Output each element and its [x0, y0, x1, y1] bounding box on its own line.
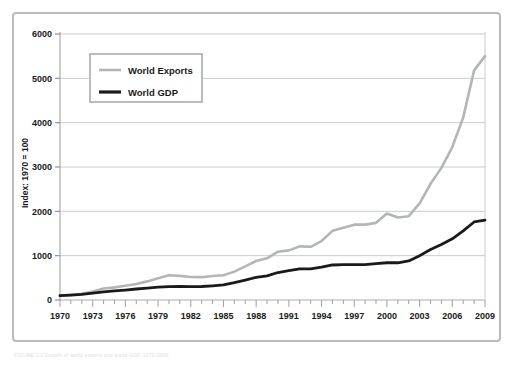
chart-frame: 0100020003000400050006000197019731976197… — [12, 12, 501, 342]
y-tick-label: 4000 — [32, 118, 52, 128]
x-tick-label: 1988 — [246, 311, 266, 321]
x-tick-label: 1985 — [213, 311, 233, 321]
legend-label-0: World Exports — [128, 65, 193, 76]
y-tick-label: 2000 — [32, 207, 52, 217]
line-chart: 0100020003000400050006000197019731976197… — [14, 14, 499, 340]
y-tick-label: 6000 — [32, 29, 52, 39]
x-tick-label: 2009 — [475, 311, 495, 321]
x-tick-label: 2006 — [442, 311, 462, 321]
y-tick-label: 0 — [47, 295, 52, 305]
x-tick-label: 1979 — [148, 311, 168, 321]
y-tick-label: 1000 — [32, 251, 52, 261]
x-tick-label: 1991 — [279, 311, 299, 321]
series-line-world-gdp — [60, 220, 485, 295]
figure-caption: FIGURE 1.1 Growth of world exports and w… — [14, 352, 504, 358]
x-tick-label: 2003 — [410, 311, 430, 321]
x-tick-label: 1970 — [50, 311, 70, 321]
y-axis-title: Index: 1970 = 100 — [20, 138, 30, 208]
y-tick-label: 3000 — [32, 162, 52, 172]
x-tick-label: 1994 — [312, 311, 332, 321]
y-tick-label: 5000 — [32, 74, 52, 84]
figure-container: 0100020003000400050006000197019731976197… — [0, 0, 516, 365]
x-tick-label: 1982 — [181, 311, 201, 321]
x-tick-label: 2000 — [377, 311, 397, 321]
legend-label-1: World GDP — [128, 87, 179, 98]
x-tick-label: 1973 — [83, 311, 103, 321]
x-tick-label: 1976 — [115, 311, 135, 321]
x-tick-label: 1997 — [344, 311, 364, 321]
